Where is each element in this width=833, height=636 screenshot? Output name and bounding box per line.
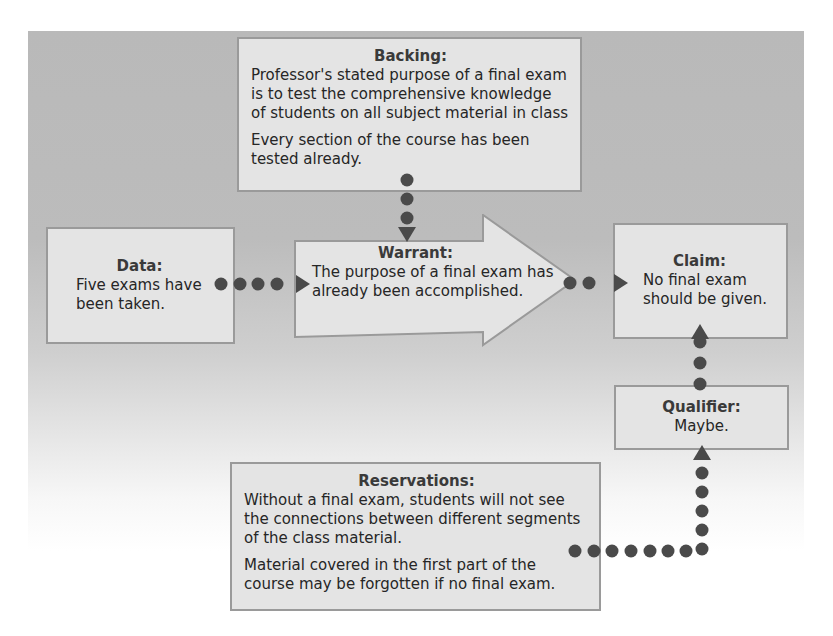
data-title: Data: [76, 257, 225, 276]
data-text: Five exams have been taken. [76, 276, 225, 314]
warrant-title: Warrant: [312, 244, 562, 263]
claim-title: Claim: [643, 252, 778, 271]
qualifier-text: Maybe. [622, 417, 781, 436]
backing-paragraph-2: Every section of the course has been tes… [251, 131, 570, 169]
reservations-paragraph-1: Without a final exam, students will not … [244, 491, 589, 548]
qualifier-box: Qualifier: Maybe. [614, 385, 789, 450]
warrant-arrow: Warrant: The purpose of a final exam has… [294, 214, 578, 347]
claim-box: Claim: No final exam should be given. [613, 223, 788, 339]
warrant-line-1: The purpose of a final exam has [312, 263, 562, 282]
reservations-title: Reservations: [244, 472, 589, 491]
warrant-content: Warrant: The purpose of a final exam has… [312, 244, 562, 301]
data-box: Data: Five exams have been taken. [46, 227, 235, 344]
reservations-box: Reservations: Without a final exam, stud… [230, 462, 601, 611]
backing-box: Backing: Professor's stated purpose of a… [237, 37, 582, 192]
backing-title: Backing: [251, 47, 570, 66]
backing-paragraph-1: Professor's stated purpose of a final ex… [251, 66, 570, 123]
claim-text: No final exam should be given. [643, 271, 778, 309]
qualifier-title: Qualifier: [622, 398, 781, 417]
warrant-line-2: already been accomplished. [312, 282, 562, 301]
reservations-paragraph-2: Material covered in the first part of th… [244, 556, 589, 594]
